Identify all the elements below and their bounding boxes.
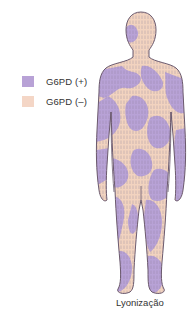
body-mosaic-figure — [0, 0, 196, 316]
figure-caption: Lyonização — [116, 297, 164, 308]
